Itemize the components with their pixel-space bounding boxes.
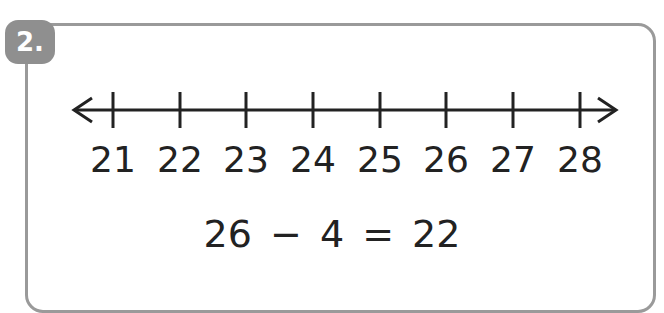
tick-label: 24 — [290, 138, 336, 182]
tick-label: 26 — [423, 138, 469, 182]
tick-label: 23 — [223, 138, 269, 182]
equation: 26 − 4 = 22 — [0, 211, 664, 257]
tick-label: 22 — [157, 138, 203, 182]
tick-label: 27 — [490, 138, 536, 182]
tick-label: 28 — [557, 138, 603, 182]
tick-label: 25 — [357, 138, 403, 182]
tick-label: 21 — [90, 138, 136, 182]
